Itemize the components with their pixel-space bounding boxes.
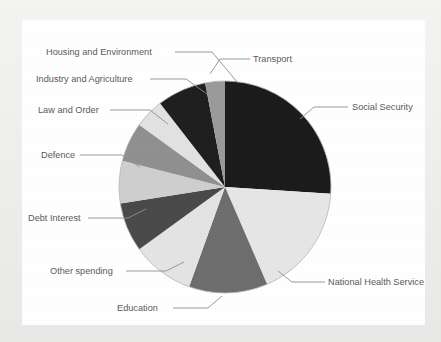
label-debt-interest: Debt Interest <box>28 213 81 223</box>
leader-line-housing-and-environment <box>175 52 238 83</box>
leader-line-transport <box>210 59 250 74</box>
label-other-spending: Other spending <box>50 266 113 276</box>
label-transport: Transport <box>253 54 292 64</box>
label-housing-and-environment: Housing and Environment <box>46 47 152 57</box>
label-law-and-order: Law and Order <box>38 105 99 115</box>
page-background: Housing and Environment Industry and Agr… <box>0 0 441 342</box>
pie-chart: Housing and Environment Industry and Agr… <box>0 0 441 342</box>
label-national-health-service: National Health Service <box>328 277 424 287</box>
leader-line-education <box>173 296 222 308</box>
label-industry-and-agriculture: Industry and Agriculture <box>36 74 133 84</box>
label-defence: Defence <box>41 150 75 160</box>
pie-slice-social-security[interactable] <box>225 81 331 194</box>
leader-line-social-security <box>300 107 348 119</box>
pie-slices-group <box>119 81 331 293</box>
label-social-security: Social Security <box>352 102 413 112</box>
label-education: Education <box>117 303 158 313</box>
